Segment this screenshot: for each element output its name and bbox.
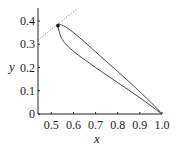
y-tick-label: 0.1	[20, 84, 35, 98]
y-axis-label: y	[7, 59, 15, 74]
x-axis: 0.50.60.70.80.91.0	[38, 112, 170, 132]
x-axis-label: x	[93, 131, 100, 146]
x-tick-label: 0.9	[132, 118, 147, 132]
y-axis: 00.10.20.30.4	[20, 8, 40, 121]
marked-point	[56, 24, 60, 28]
x-tick-label: 0.5	[44, 118, 59, 132]
chart-canvas: 0.50.60.70.80.91.0 00.10.20.30.4 x y	[0, 0, 177, 154]
y-tick-label: 0.2	[20, 61, 35, 75]
y-tick-label: 0.4	[20, 14, 35, 28]
y-tick-label: 0.3	[20, 37, 35, 51]
x-tick-label: 1.0	[155, 118, 170, 132]
x-tick-label: 0.6	[66, 118, 81, 132]
x-tick-label: 0.7	[88, 118, 103, 132]
y-tick-label: 0	[29, 107, 35, 121]
plot-area	[38, 8, 162, 114]
x-tick-label: 0.8	[110, 118, 125, 132]
loop-curve	[58, 24, 162, 114]
